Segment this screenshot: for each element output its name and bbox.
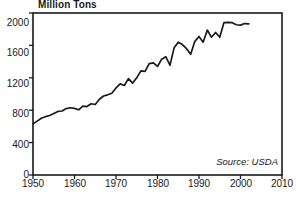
plot-border xyxy=(33,13,282,175)
chart-plot-svg xyxy=(0,0,296,201)
data-line-grain-production xyxy=(33,22,249,124)
plot-frame xyxy=(33,13,282,175)
chart-container: Million Tons 2000 1600 1200 800 400 0 19… xyxy=(0,0,296,201)
